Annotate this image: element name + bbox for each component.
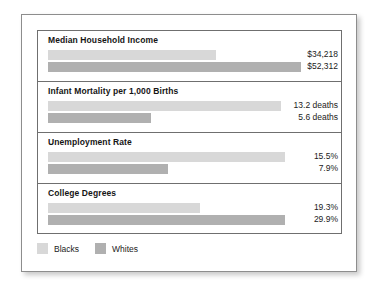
chart-outer-frame: Median Household Income $34,218 $52,312 … xyxy=(21,14,357,272)
legend-item-blacks: Blacks xyxy=(37,243,79,254)
group-values: 19.3% 29.9% xyxy=(290,201,341,225)
value-whites: 5.6 deaths xyxy=(290,111,338,123)
group-title: Infant Mortality per 1,000 Births xyxy=(48,86,178,96)
legend-label: Whites xyxy=(112,244,138,254)
chart-legend: Blacks Whites xyxy=(37,243,154,254)
chart-group: Infant Mortality per 1,000 Births 13.2 d… xyxy=(38,82,341,133)
group-title: Unemployment Rate xyxy=(48,137,132,147)
group-values: 15.5% 7.9% xyxy=(290,150,341,174)
legend-item-whites: Whites xyxy=(95,243,138,254)
legend-swatch-icon xyxy=(37,243,48,254)
value-whites: 7.9% xyxy=(290,162,338,174)
legend-swatch-icon xyxy=(95,243,106,254)
group-title: Median Household Income xyxy=(48,35,158,45)
group-values: 13.2 deaths 5.6 deaths xyxy=(290,99,341,123)
value-blacks: 13.2 deaths xyxy=(290,99,338,111)
value-blacks: 19.3% xyxy=(290,201,338,213)
value-blacks: $34,218 xyxy=(290,48,338,60)
value-whites: 29.9% xyxy=(290,213,338,225)
group-values: $34,218 $52,312 xyxy=(290,48,341,72)
bar-whites xyxy=(48,62,301,72)
chart-group: Median Household Income $34,218 $52,312 xyxy=(38,31,341,82)
bar-whites xyxy=(48,113,151,123)
bar-whites xyxy=(48,215,285,225)
bar-blacks xyxy=(48,203,200,213)
bar-whites xyxy=(48,164,168,174)
bar-blacks xyxy=(48,50,216,60)
bar-blacks xyxy=(48,152,285,162)
chart-group: Unemployment Rate 15.5% 7.9% xyxy=(38,133,341,184)
chart-group: College Degrees 19.3% 29.9% xyxy=(38,184,341,235)
value-whites: $52,312 xyxy=(290,60,338,72)
chart-root: Median Household Income $34,218 $52,312 … xyxy=(0,0,380,287)
legend-label: Blacks xyxy=(54,244,79,254)
bar-blacks xyxy=(48,101,281,111)
value-blacks: 15.5% xyxy=(290,150,338,162)
group-title: College Degrees xyxy=(48,188,116,198)
chart-panel: Median Household Income $34,218 $52,312 … xyxy=(37,30,342,234)
